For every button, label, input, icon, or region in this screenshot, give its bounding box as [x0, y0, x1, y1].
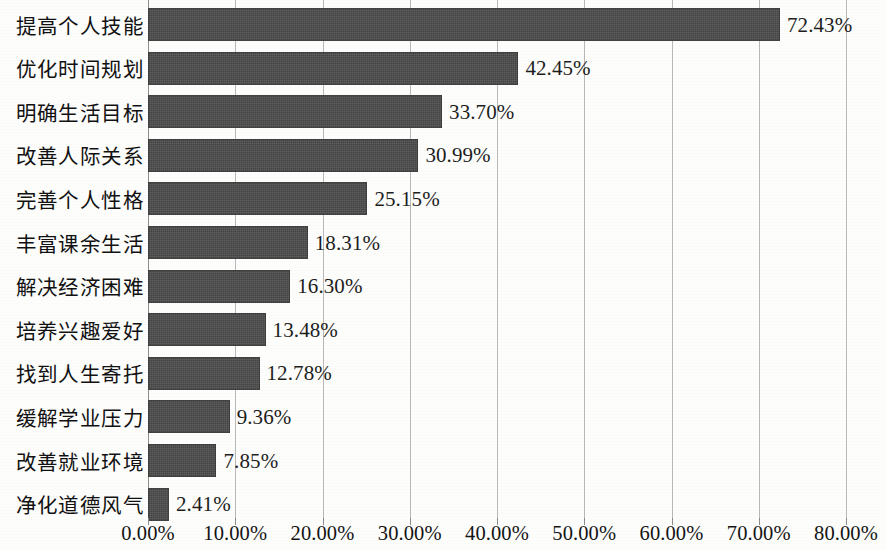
gridline: [846, 0, 847, 518]
bar-value-label: 7.85%: [223, 448, 278, 473]
gridline: [672, 0, 673, 518]
bar[interactable]: [148, 182, 367, 215]
x-axis-tick-label: 20.00%: [291, 522, 355, 545]
bar[interactable]: [148, 488, 169, 521]
category-label: 解决经济困难: [16, 271, 144, 301]
bar[interactable]: [148, 357, 260, 390]
bar[interactable]: [148, 139, 418, 172]
bar-value-label: 13.48%: [273, 317, 338, 342]
category-label: 完善个人性格: [16, 184, 144, 214]
x-axis-tick-label: 50.00%: [552, 522, 616, 545]
bar-value-label: 72.43%: [787, 12, 852, 37]
x-axis-tick-label: 40.00%: [465, 522, 529, 545]
gridline: [759, 0, 760, 518]
horizontal-bar-chart: 提高个人技能优化时间规划明确生活目标改善人际关系完善个人性格丰富课余生活解决经济…: [0, 0, 886, 550]
category-label: 优化时间规划: [16, 53, 144, 83]
bar[interactable]: [148, 8, 780, 41]
bar[interactable]: [148, 226, 308, 259]
bar[interactable]: [148, 400, 230, 433]
bar[interactable]: [148, 270, 290, 303]
bar-value-label: 30.99%: [425, 143, 490, 168]
bar[interactable]: [148, 95, 442, 128]
bar-value-label: 18.31%: [315, 230, 380, 255]
x-axis-tick-label: 0.00%: [121, 522, 174, 545]
x-axis-tick-label: 10.00%: [203, 522, 267, 545]
plot-area: [148, 0, 846, 518]
category-label: 明确生活目标: [16, 97, 144, 127]
category-label: 缓解学业压力: [16, 402, 144, 432]
category-label: 丰富课余生活: [16, 228, 144, 258]
category-label: 改善人际关系: [16, 140, 144, 170]
bar-value-label: 16.30%: [297, 274, 362, 299]
x-axis-tick-label: 70.00%: [727, 522, 791, 545]
bar-value-label: 9.36%: [237, 404, 292, 429]
bar[interactable]: [148, 313, 266, 346]
bar-value-label: 33.70%: [449, 99, 514, 124]
bar-value-label: 25.15%: [374, 186, 439, 211]
category-label: 净化道德风气: [16, 489, 144, 519]
bar-value-label: 12.78%: [267, 361, 332, 386]
x-axis-tick-label: 60.00%: [640, 522, 704, 545]
category-label: 培养兴趣爱好: [16, 315, 144, 345]
category-label: 改善就业环境: [16, 446, 144, 476]
bar-value-label: 2.41%: [176, 492, 231, 517]
x-axis-tick-label: 30.00%: [378, 522, 442, 545]
bar[interactable]: [148, 444, 216, 477]
category-label: 找到人生寄托: [16, 358, 144, 388]
category-label: 提高个人技能: [16, 10, 144, 40]
bar-value-label: 42.45%: [525, 56, 590, 81]
bar[interactable]: [148, 52, 518, 85]
x-axis-tick-label: 80.00%: [814, 522, 878, 545]
